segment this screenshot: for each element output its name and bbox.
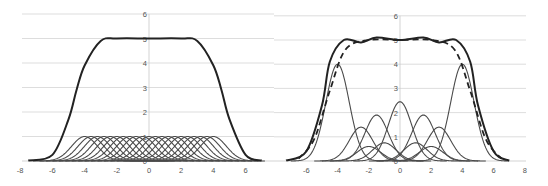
x-tick-label: 6	[244, 166, 248, 175]
x-tick-label: 4	[460, 166, 464, 175]
component-curve	[338, 143, 432, 161]
right-chart-weighted-sum: -6-4-2024680123456	[274, 12, 527, 175]
y-tick-label: 3	[143, 84, 147, 93]
x-tick-label: -4	[81, 166, 88, 175]
x-tick-label: 2	[429, 166, 433, 175]
y-tick-label: 4	[394, 60, 398, 69]
y-tick-label: 2	[394, 109, 398, 118]
x-tick-label: -6	[49, 166, 56, 175]
x-tick-label: -2	[113, 166, 120, 175]
component-curve	[369, 143, 463, 161]
y-tick-label: 6	[143, 10, 147, 19]
x-tick-label: -4	[334, 166, 341, 175]
x-tick-label: 2	[179, 166, 183, 175]
x-tick-label: 8	[523, 166, 527, 175]
x-tick-label: -2	[365, 166, 372, 175]
x-tick-label: 6	[492, 166, 496, 175]
y-tick-label: 1	[394, 133, 398, 142]
y-tick-label: 6	[394, 12, 398, 21]
y-tick-label: 2	[143, 108, 147, 117]
x-tick-label: -6	[303, 166, 310, 175]
x-tick-label: 4	[211, 166, 215, 175]
y-tick-label: 4	[143, 59, 147, 68]
x-tick-label: 0	[147, 166, 151, 175]
left-chart-plateau-sum: -8-6-4-202460123456	[17, 10, 274, 175]
chart-canvas: -8-6-4-202460123456 -6-4-2024680123456	[0, 0, 548, 186]
component-curve	[392, 127, 486, 161]
sum-curve	[286, 38, 509, 161]
y-tick-label: 3	[394, 84, 398, 93]
x-tick-label: 0	[398, 166, 402, 175]
x-tick-label: -8	[17, 166, 24, 175]
